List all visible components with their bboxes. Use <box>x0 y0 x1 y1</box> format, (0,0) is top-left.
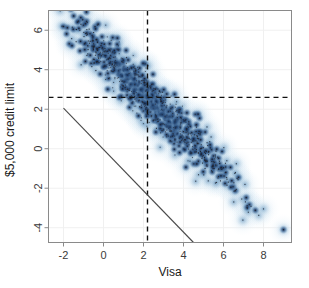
y-tick-label: -4 <box>32 223 44 233</box>
plot-canvas: -202468 6420-2-4 Visa $5,000 credit limi… <box>0 0 309 288</box>
y-axis: 6420-2-4 <box>32 27 48 232</box>
y-tick-label: 4 <box>32 67 44 73</box>
x-tick-label: 4 <box>180 249 186 261</box>
x-tick-label: 0 <box>100 249 106 261</box>
x-tick-label: -2 <box>59 249 69 261</box>
x-axis: -202468 <box>59 243 267 261</box>
y-tick-label: 2 <box>32 106 44 112</box>
y-axis-title: $5,000 credit limit <box>3 82 17 177</box>
x-axis-title: Visa <box>158 265 181 279</box>
y-tick-label: 6 <box>32 27 44 33</box>
scatter-plot-figure: -202468 6420-2-4 Visa $5,000 credit limi… <box>0 0 309 288</box>
y-tick-label: 0 <box>32 146 44 152</box>
y-tick-label: -2 <box>32 183 44 193</box>
x-tick-label: 2 <box>140 249 146 261</box>
x-tick-label: 8 <box>260 249 266 261</box>
x-tick-label: 6 <box>220 249 226 261</box>
